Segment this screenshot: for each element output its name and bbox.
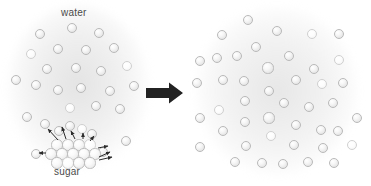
dissolved-molecule [192, 78, 202, 88]
dissolution-arrow [98, 146, 108, 148]
dissolved-molecule [338, 78, 348, 88]
label-water: water [61, 7, 86, 18]
dissolved-molecule [262, 62, 273, 73]
dissolved-molecule [217, 30, 227, 40]
dissolved-molecule [272, 26, 282, 36]
dissolved-molecule [334, 55, 344, 65]
dissolved-molecule [303, 157, 313, 167]
dissolved-molecule [218, 75, 228, 85]
dissolved-molecule [317, 79, 327, 89]
dissolution-arrow [90, 136, 94, 141]
dissolved-molecule [232, 51, 242, 61]
dissolved-molecule [239, 76, 249, 86]
dissolved-molecule [309, 64, 319, 74]
dissolution-arrow [48, 129, 58, 140]
dissolution-arrow [62, 127, 66, 139]
dissolved-molecule [333, 126, 343, 136]
dissolved-molecule [278, 159, 288, 169]
dissolved-molecule [257, 158, 267, 168]
dissolved-molecule [291, 120, 301, 130]
dissolved-molecule [329, 158, 339, 168]
dissolved-molecule [195, 142, 205, 152]
dissolved-molecule [263, 112, 274, 123]
dissolved-molecule [214, 105, 224, 115]
dissolved-molecule [240, 96, 250, 106]
dissolved-molecule [212, 53, 222, 63]
dissolved-molecule [304, 102, 314, 112]
dissolution-arrow [71, 131, 75, 139]
dissolved-molecule [251, 42, 261, 52]
dissolution-arrow [99, 152, 110, 157]
dissolved-molecule [352, 113, 362, 123]
dissolved-molecule [289, 140, 299, 150]
dissolved-molecule [279, 98, 289, 108]
dissolved-molecule [318, 143, 328, 153]
dissolved-molecule [328, 98, 338, 108]
dissolved-molecule [284, 51, 294, 61]
dissolved-molecule [241, 141, 251, 151]
dissolved-molecule [307, 29, 317, 39]
dissolved-molecule [230, 157, 240, 167]
dissolved-molecule [291, 75, 301, 85]
transition-arrow-icon [145, 80, 185, 106]
dissolved-molecule [347, 140, 357, 150]
dissolved-molecule [316, 125, 326, 135]
dissolved-molecule [266, 131, 276, 141]
dissolution-arrow [99, 157, 112, 160]
panel-after-dissolving [185, 0, 371, 186]
dissolved-molecule [195, 113, 205, 123]
dissolved-molecule [334, 29, 344, 39]
dissolved-molecule [240, 117, 250, 127]
dissolved-molecule [243, 15, 253, 25]
dissolved-molecule [218, 126, 228, 136]
dissolved-molecule [264, 86, 274, 96]
dissolved-molecule [195, 56, 205, 66]
diagram-canvas: water sugar [0, 0, 371, 186]
label-sugar: sugar [54, 166, 80, 177]
